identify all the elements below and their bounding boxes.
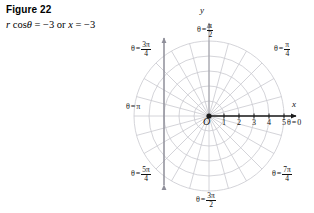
polar-plot-svg <box>0 0 314 213</box>
angle-label-theta-zero: θ=0 <box>287 119 301 127</box>
angle-label-theta-pi-over-4: θ=π4 <box>274 41 290 58</box>
x-tick-label-4: 4 <box>267 119 271 127</box>
fraction-denominator: 4 <box>141 175 151 183</box>
theta-symbol: θ <box>131 44 135 53</box>
theta-symbol: θ <box>131 169 135 178</box>
x-tick-label-1: 1 <box>222 119 226 127</box>
fraction-numerator: π <box>207 22 213 30</box>
x-tick-label-3: 3 <box>252 119 256 127</box>
angle-label-theta-3pi-over-4: θ=3π4 <box>131 41 151 58</box>
fraction-numerator: π <box>284 41 290 49</box>
fraction-denominator: 4 <box>284 50 290 58</box>
fraction-numerator: 7π <box>282 166 292 174</box>
fraction-numerator: 3π <box>206 192 216 200</box>
fraction-7pi-over-4: 7π4 <box>282 166 292 183</box>
figure-22-container: Figure 22 r cosθ = −3 or x = −3 <box>0 0 314 213</box>
fraction-numerator: 5π <box>141 166 151 174</box>
theta-symbol: θ <box>196 195 200 204</box>
theta-symbol: θ <box>274 44 278 53</box>
fraction-denominator: 4 <box>141 50 151 58</box>
fraction-pi-over-4: π4 <box>284 41 290 58</box>
angle-label-theta-pi: θ=π <box>126 103 140 111</box>
fraction-3pi-over-2: 3π2 <box>206 192 216 209</box>
fraction-3pi-over-4: 3π4 <box>141 41 151 58</box>
x-tick-label-2: 2 <box>237 119 241 127</box>
y-axis-letter: y <box>200 6 204 15</box>
angle-label-theta-5pi-over-4: θ=5π4 <box>131 166 151 183</box>
theta-value: 0 <box>297 118 301 127</box>
fraction-5pi-over-4: 5π4 <box>141 166 151 183</box>
fraction-numerator: 3π <box>141 41 151 49</box>
theta-symbol: θ <box>197 25 201 34</box>
origin-label: O <box>203 117 210 127</box>
angle-label-theta-pi-over-2: θ=π2 <box>197 22 213 39</box>
theta-symbol: θ <box>126 102 130 111</box>
theta-value: π <box>136 102 140 111</box>
fraction-denominator: 2 <box>206 201 216 209</box>
x-tick-label-5: 5 <box>282 119 286 127</box>
fraction-pi-over-2: π2 <box>207 22 213 39</box>
polar-plot: x y O 1 2 3 4 5 θ=0 θ=π4 θ=π2 θ=3π4 θ=π <box>0 0 314 213</box>
fraction-denominator: 4 <box>282 175 292 183</box>
angle-label-theta-7pi-over-4: θ=7π4 <box>272 166 292 183</box>
x-axis-letter: x <box>292 100 296 109</box>
fraction-denominator: 2 <box>207 31 213 39</box>
angle-label-theta-3pi-over-2: θ=3π2 <box>196 192 216 209</box>
theta-symbol: θ <box>287 118 291 127</box>
theta-symbol: θ <box>272 169 276 178</box>
